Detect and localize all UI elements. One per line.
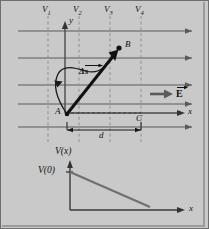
- electric-field-vector-hat-icon: [176, 85, 189, 90]
- point-label-c: C: [136, 114, 142, 123]
- x-axis-label: x: [188, 107, 192, 116]
- point-b-marker: [116, 45, 121, 50]
- distance-label: d: [99, 131, 104, 140]
- equipotential-label-v2: V2: [73, 5, 82, 16]
- equipotential-sub-v4: 4: [141, 9, 144, 16]
- y-axis-label: y: [69, 16, 73, 25]
- point-label-a: A: [55, 107, 61, 116]
- graph-y-axis-label: V(x): [55, 147, 71, 157]
- equipotential-label-v3: V3: [104, 5, 113, 16]
- electric-field-label: E: [176, 89, 183, 99]
- displacement-label: Δs: [79, 67, 88, 76]
- point-label-b: B: [125, 40, 131, 49]
- equipotential-label-v1: V1: [42, 5, 51, 16]
- graph-x-axis-label: x: [189, 204, 193, 213]
- graph-v0-label: V(0): [38, 166, 55, 176]
- equipotential-sub-v1: 1: [48, 9, 51, 16]
- equipotential-label-v4: V4: [135, 5, 144, 16]
- figure-root: V1 V2 V3 V4 y x A B C Δs E d V(x) V(0) x: [0, 0, 209, 229]
- displacement-vector-hat-icon: [84, 63, 104, 68]
- equipotential-sub-v2: 2: [79, 9, 82, 16]
- point-a-marker: [65, 112, 70, 117]
- equipotential-sub-v3: 3: [110, 9, 113, 16]
- figure-canvas: [0, 0, 209, 229]
